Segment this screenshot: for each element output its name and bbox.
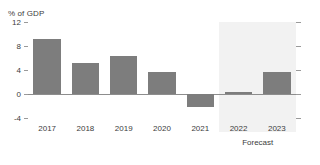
y-tick-label: 12: [12, 18, 21, 27]
x-tick-label: 2020: [153, 124, 171, 133]
x-tick-label: 2017: [38, 124, 56, 133]
y-tick-mark-right: [296, 22, 301, 23]
bar: [263, 72, 291, 94]
x-tick-label: 2018: [77, 124, 95, 133]
plot-area: 12840-4: [28, 22, 296, 118]
y-tick-mark-right: [296, 70, 301, 71]
x-axis-labels: 2017201820192020202120222023: [28, 124, 296, 136]
x-tick-label: 2021: [191, 124, 209, 133]
bar: [148, 72, 176, 94]
bar: [110, 56, 138, 94]
bar: [187, 94, 215, 107]
y-tick-label: -4: [14, 114, 21, 123]
x-tick-label: 2019: [115, 124, 133, 133]
bar: [225, 92, 253, 94]
bar: [72, 63, 100, 94]
y-tick-mark-right: [296, 118, 301, 119]
x-tick-label: 2022: [230, 124, 248, 133]
bar-series: [28, 22, 296, 118]
forecast-annotation-label: Forecast: [242, 138, 273, 147]
y-tick-mark-right: [296, 46, 301, 47]
y-tick-label: 4: [17, 66, 21, 75]
y-tick-mark: [24, 118, 28, 119]
y-tick-mark-right: [296, 94, 301, 95]
bar: [33, 39, 61, 94]
x-tick-label: 2023: [268, 124, 286, 133]
y-tick-label: 8: [17, 42, 21, 51]
bar-chart: % of GDP 12840-4 20172018201920202021202…: [0, 0, 320, 165]
y-tick-label: 0: [17, 90, 21, 99]
